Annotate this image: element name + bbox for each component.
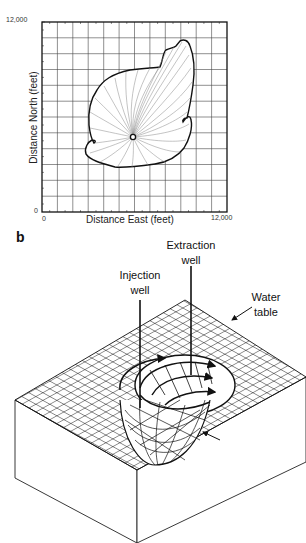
- label-injection-well: Injection well: [112, 268, 168, 298]
- dividing-surface-arrow: [203, 432, 220, 440]
- extraction-well-marker: [130, 134, 135, 139]
- label-dividing-surface: Dividing surface: [220, 431, 270, 461]
- label-extraction-well: Extraction well: [160, 238, 222, 268]
- label-water-table: Water table: [246, 290, 286, 320]
- panel-letter-b: b: [16, 229, 25, 245]
- capture-zone-plot: [0, 0, 306, 230]
- dividing-surface: [120, 355, 235, 465]
